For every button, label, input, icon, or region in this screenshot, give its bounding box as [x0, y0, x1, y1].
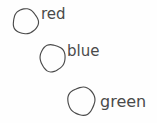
label-green: green [100, 92, 146, 111]
hand-drawn-circle-green [68, 87, 95, 115]
hand-drawn-circle-red [13, 9, 38, 34]
label-blue: blue [67, 42, 99, 60]
hand-drawn-circle-blue [40, 45, 65, 72]
sketch-drawing: red blue green [0, 0, 157, 123]
sketch-item-green: green [68, 87, 146, 115]
sketch-canvas: red blue green [0, 0, 157, 123]
sketch-item-blue: blue [40, 42, 99, 72]
sketch-item-red: red [13, 5, 65, 34]
label-red: red [41, 5, 66, 23]
